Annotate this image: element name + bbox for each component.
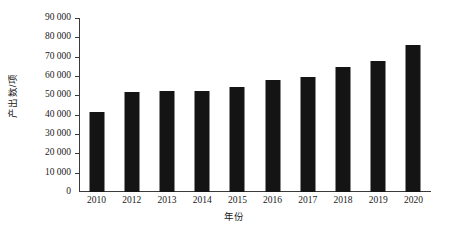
bar-slot	[149, 18, 184, 192]
bar	[230, 87, 245, 192]
x-axis-tick-label: 2012	[122, 194, 141, 206]
y-axis-tick-label: 40 000	[45, 110, 71, 120]
bar	[371, 61, 386, 192]
x-axis-tick-label: 2010	[87, 194, 106, 206]
x-axis-tick-label: 2020	[404, 194, 423, 206]
y-axis-tick-label: 80 000	[45, 33, 71, 43]
x-axis-tick-label: 2017	[298, 194, 317, 206]
y-axis-tick-label: 0	[66, 187, 71, 197]
bar	[124, 92, 139, 192]
bar-slot	[220, 18, 255, 192]
bar-slot	[185, 18, 220, 192]
bar-slot	[396, 18, 431, 192]
y-axis-tick-label: 10 000	[45, 168, 71, 178]
bar-slot	[325, 18, 360, 192]
bar	[159, 91, 174, 192]
x-axis-title: 年份	[0, 209, 453, 223]
bar-slot	[290, 18, 325, 192]
y-axis-title: 产出数/项	[4, 0, 20, 192]
bar-chart-figure: 产出数/项 010 00020 00030 00040 00050 00060 …	[0, 0, 453, 242]
y-axis-tick-label: 70 000	[45, 52, 71, 62]
y-axis-tick-label: 90 000	[45, 13, 71, 23]
y-axis-tick-label: 30 000	[45, 129, 71, 139]
x-axis-tick-labels: 2010201220132014201520162017201820192020	[79, 194, 431, 210]
bar-slot	[114, 18, 149, 192]
y-axis-tick-label: 50 000	[45, 91, 71, 101]
x-axis-tick-label: 2016	[263, 194, 282, 206]
bar-slot	[79, 18, 114, 192]
y-axis-tick-label: 60 000	[45, 71, 71, 81]
bar-slot	[255, 18, 290, 192]
x-axis-tick-label: 2013	[158, 194, 177, 206]
y-axis-tick-label: 20 000	[45, 149, 71, 159]
x-axis-title-text: 年份	[210, 211, 244, 222]
bar	[265, 80, 280, 192]
x-axis-tick-label: 2019	[369, 194, 388, 206]
y-axis-tick-labels: 010 00020 00030 00040 00050 00060 00070 …	[20, 0, 75, 242]
bar	[300, 77, 315, 192]
bar	[89, 112, 104, 192]
plot-area	[79, 18, 431, 192]
bar	[406, 45, 421, 192]
x-axis-tick-label: 2014	[193, 194, 212, 206]
bar	[195, 91, 210, 193]
x-axis-tick-label: 2015	[228, 194, 247, 206]
x-axis-tick-label: 2018	[334, 194, 353, 206]
bars-layer	[79, 18, 431, 192]
bar	[335, 67, 350, 192]
bar-slot	[361, 18, 396, 192]
y-axis-title-text: 产出数/项	[5, 74, 19, 118]
